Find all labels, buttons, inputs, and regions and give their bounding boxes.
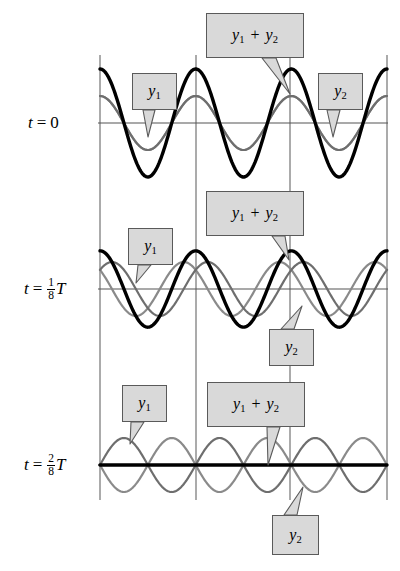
time-label-t0: t=0 [28,113,59,133]
callout-text: y2 [289,526,301,545]
callout-text: y2 [285,338,297,357]
callout-text: y1 [148,82,160,101]
time-label-t1: t=18T [24,277,66,301]
callout-y2-row3: y2 [272,515,319,555]
callout-text: y2 [334,82,346,101]
callout-sum-row2: y1+y2 [206,191,304,236]
callout-sum-row1: y1+y2 [206,13,304,58]
callout-y2-row1: y2 [318,73,363,110]
wave-curves [100,69,387,492]
callout-tail-sum-row2 [272,236,289,260]
callout-text: y1 [138,394,150,413]
callout-tail-y1-row2 [136,265,151,283]
callout-text: y1+y2 [233,395,279,414]
callout-tail-y2-row3 [284,487,303,515]
callout-text: y1+y2 [232,204,278,223]
time-label-t2: t=28T [24,453,66,477]
callout-text: y1 [144,237,156,256]
callout-y1-row3: y1 [122,385,167,422]
callout-y2-row2: y2 [269,329,314,366]
standing-wave-figure: t=0t=18Tt=28T y1+y2y1y2y1+y2y1y2y1y1+y2y… [0,0,400,571]
vertical-gridlines [100,55,387,500]
callout-tail-sum-row1 [262,58,290,94]
callout-tail-y2-row2 [281,306,302,329]
callout-sum-row3: y1+y2 [207,382,305,427]
callout-y1-row1: y1 [132,73,177,110]
callout-tail-y1-row3 [130,422,144,444]
callout-text: y1+y2 [232,26,278,45]
callout-y1-row2: y1 [128,228,173,265]
